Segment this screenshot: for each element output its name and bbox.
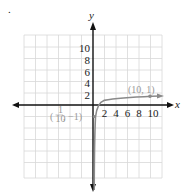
y-axis-label: y (88, 9, 94, 21)
svg-text:10: 10 (148, 107, 160, 119)
svg-text:(: ( (50, 111, 54, 123)
svg-text:8: 8 (136, 107, 142, 119)
svg-text:8: 8 (85, 54, 91, 66)
curve-arrow-icon (157, 94, 164, 99)
svg-text:2: 2 (85, 89, 91, 101)
svg-text:10: 10 (79, 42, 91, 54)
point-10-1 (148, 95, 152, 99)
svg-text:6: 6 (125, 107, 131, 119)
svg-text:4: 4 (85, 77, 91, 89)
x-tick-labels: 2 4 6 8 10 (102, 107, 159, 119)
bullet: . (8, 3, 11, 15)
y-tick-labels: 10 8 6 4 2 (79, 42, 91, 101)
point-label-10-1: (10, 1) (128, 84, 155, 96)
svg-text:2: 2 (102, 107, 108, 119)
svg-text:, −1): , −1) (63, 111, 82, 123)
point-label-tenth-neg1: ( 1 10 , −1) (50, 104, 82, 124)
x-axis-label: x (174, 98, 180, 110)
svg-text:4: 4 (113, 107, 119, 119)
graph: y x . 10 8 6 4 2 2 4 6 8 10 (10, 1) ( 1 … (0, 0, 185, 196)
point-tenth-neg1 (93, 115, 96, 118)
